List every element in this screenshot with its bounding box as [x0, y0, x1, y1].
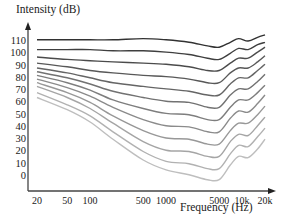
curve-100-phon [37, 42, 265, 59]
plot-area [0, 0, 288, 219]
curve-30-phon [37, 83, 265, 146]
curve-10-phon [37, 93, 265, 170]
curve-50-phon [37, 75, 265, 120]
curve-70-phon [37, 64, 265, 96]
curve-110-phon [37, 35, 265, 47]
x-axis-arrow-icon [268, 188, 276, 194]
curve-60-phon [37, 72, 265, 109]
y-axis-arrow-icon [25, 22, 31, 30]
equal-loudness-curves [37, 35, 265, 181]
